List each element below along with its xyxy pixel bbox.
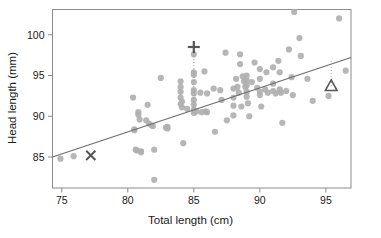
data-point xyxy=(249,79,255,85)
data-point xyxy=(180,140,186,146)
data-point xyxy=(71,153,77,159)
axis-ticks: 7580859095859095100 xyxy=(27,29,332,206)
data-point xyxy=(230,112,236,118)
data-point xyxy=(137,116,143,122)
data-point xyxy=(343,68,349,74)
data-point xyxy=(179,99,185,105)
data-point xyxy=(257,66,263,72)
scatter-points xyxy=(57,9,349,183)
scatter-plot-figure: 7580859095859095100 Total length (cm) He… xyxy=(0,0,381,238)
x-tick-label: 85 xyxy=(188,194,200,206)
data-point xyxy=(336,15,342,21)
x-tick-label: 90 xyxy=(254,194,266,206)
data-point xyxy=(179,104,185,110)
data-point xyxy=(296,35,302,41)
data-point xyxy=(204,109,210,115)
plot-frame xyxy=(53,10,352,189)
x-axis-title: Total length (cm) xyxy=(0,214,381,226)
highlight-markers xyxy=(86,41,337,160)
data-point xyxy=(304,76,310,82)
y-axis-title: Head length (mm) xyxy=(6,38,18,158)
data-point xyxy=(138,149,144,155)
data-point xyxy=(279,120,285,126)
data-point xyxy=(251,59,257,65)
data-point xyxy=(290,92,296,98)
data-point xyxy=(145,102,151,108)
data-point xyxy=(258,103,264,109)
data-point xyxy=(237,51,243,57)
data-point xyxy=(298,53,304,59)
data-point xyxy=(275,58,281,64)
data-point xyxy=(278,90,284,96)
x-tick-label: 75 xyxy=(56,194,68,206)
data-point xyxy=(178,78,184,84)
data-point xyxy=(230,103,236,109)
data-point xyxy=(233,76,239,82)
data-point xyxy=(158,75,164,81)
data-point xyxy=(151,177,157,183)
data-point xyxy=(246,113,252,119)
data-point xyxy=(204,90,210,96)
data-point xyxy=(224,117,230,123)
data-point xyxy=(244,94,250,100)
data-point xyxy=(238,103,244,109)
data-point xyxy=(217,87,223,93)
data-point xyxy=(57,156,63,162)
data-point xyxy=(244,82,250,88)
data-point xyxy=(201,68,207,74)
y-tick-label: 90 xyxy=(33,110,45,122)
y-tick-label: 100 xyxy=(27,29,45,41)
y-tick-label: 95 xyxy=(33,69,45,81)
data-point xyxy=(245,100,251,106)
data-point xyxy=(310,98,316,104)
data-point xyxy=(191,79,197,85)
data-point xyxy=(291,9,297,15)
data-point xyxy=(265,90,271,96)
data-point xyxy=(325,93,331,99)
data-point xyxy=(151,147,157,153)
data-point xyxy=(257,92,263,98)
data-point xyxy=(222,50,228,56)
data-point xyxy=(286,46,292,52)
data-point xyxy=(178,84,184,90)
data-point xyxy=(164,124,170,130)
data-point xyxy=(197,90,203,96)
data-point xyxy=(211,85,217,91)
data-point xyxy=(212,129,218,135)
data-point xyxy=(270,64,276,70)
x-tick-label: 95 xyxy=(320,194,332,206)
data-point xyxy=(237,61,243,67)
data-point xyxy=(283,88,289,94)
x-tick-label: 80 xyxy=(122,194,134,206)
y-tick-label: 85 xyxy=(33,151,45,163)
data-point xyxy=(234,84,240,90)
plot-canvas: 7580859095859095100 xyxy=(0,0,381,238)
data-point xyxy=(263,69,269,75)
data-point xyxy=(130,94,136,100)
data-point xyxy=(257,76,263,82)
data-point xyxy=(277,69,283,75)
